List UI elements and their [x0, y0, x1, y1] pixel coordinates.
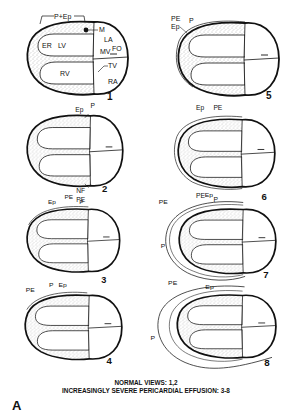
- label-ep: Ep: [196, 105, 205, 113]
- panel-number: 8: [264, 358, 269, 367]
- label-tv: TV: [108, 62, 117, 69]
- label-pe: PE: [26, 286, 36, 293]
- label-la: LA: [104, 36, 113, 43]
- label-p: P: [150, 335, 155, 342]
- panel-number: 1: [107, 91, 113, 102]
- label-mv: MV: [100, 48, 111, 55]
- label-p: P: [49, 281, 53, 288]
- caption-line-2: INCREASINGLY SEVERE PERICARDIAL EFFUSION…: [62, 387, 230, 394]
- caption-line-1: NORMAL VIEWS: 1,2: [114, 379, 178, 387]
- label-p: P: [189, 17, 194, 24]
- label-p: P: [213, 196, 218, 203]
- panel-2: Ep P NF PE 2: [27, 102, 123, 203]
- label-ep: Ep: [58, 281, 67, 289]
- panel-number: 5: [266, 90, 272, 101]
- marker-dot: [84, 28, 89, 33]
- panel-number: 7: [263, 271, 268, 281]
- panel-number: 4: [106, 357, 112, 367]
- label-ra: RA: [108, 78, 118, 85]
- panel-8: PE Ep P 8: [150, 280, 275, 369]
- label-ep: Ep: [48, 198, 56, 205]
- panel-letter: A: [12, 398, 22, 413]
- label-pe: PE: [171, 15, 181, 22]
- panel-5: PE Ep P 5: [171, 15, 279, 101]
- label-pe: PE: [64, 193, 73, 200]
- label-ep: Ep: [75, 106, 83, 114]
- label-pe: PE: [168, 280, 178, 287]
- label-nf: NF: [76, 187, 85, 194]
- label-p: P: [79, 198, 83, 205]
- label-pe: PE: [159, 199, 169, 206]
- panel-number: 3: [101, 276, 106, 286]
- label-m: M: [99, 26, 105, 33]
- label-er: ER: [42, 42, 52, 49]
- label-ep: Ep: [205, 191, 214, 199]
- panel-number: 6: [261, 191, 266, 202]
- label-pe-top: PE: [213, 105, 223, 112]
- panel-1: P+Ep M ER LV LA MV FO RV TV RA 1: [27, 13, 128, 102]
- panel-number: 2: [102, 182, 107, 193]
- label-rv: RV: [60, 70, 70, 77]
- label-p-ep: P+Ep: [54, 13, 71, 21]
- panel-7: Ep PE P 7: [159, 191, 276, 280]
- label-lv: LV: [58, 42, 66, 49]
- label-p: P: [91, 102, 96, 109]
- panel-6: Ep PE PE P 6: [174, 105, 274, 203]
- label-ep: Ep: [205, 283, 214, 290]
- echo-diagram: P+Ep M ER LV LA MV FO RV TV RA 1 PE Ep P…: [0, 0, 292, 414]
- label-ep: Ep: [171, 23, 180, 31]
- panel-4: PE P Ep 4: [25, 281, 122, 366]
- label-p: P: [161, 243, 165, 250]
- panel-3: Ep PE P 3: [27, 193, 120, 285]
- label-fo: FO: [112, 45, 122, 52]
